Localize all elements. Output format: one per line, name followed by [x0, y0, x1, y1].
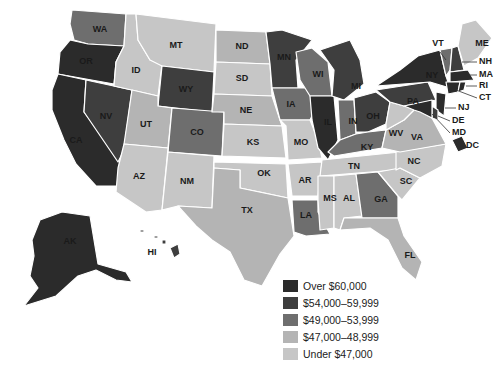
- state-ny: [376, 50, 450, 88]
- label-az: AZ: [133, 171, 145, 181]
- legend-label: $47,000–48,999: [303, 331, 379, 343]
- label-nj: NJ: [458, 102, 470, 112]
- label-wi: WI: [313, 69, 324, 79]
- label-il: IL: [324, 117, 333, 127]
- label-hi: HI: [148, 247, 157, 257]
- label-mn: MN: [277, 52, 291, 62]
- state-ma: [450, 70, 474, 82]
- label-tn: TN: [348, 161, 360, 171]
- label-ut: UT: [140, 119, 152, 129]
- label-tx: TX: [241, 205, 253, 215]
- label-sd: SD: [236, 73, 249, 83]
- label-ca: CA: [70, 135, 83, 145]
- legend-item-47000-48999: $47,000–48,999: [283, 328, 379, 345]
- legend-label: $54,000–59,999: [303, 297, 379, 309]
- legend-swatch: [283, 331, 298, 343]
- label-pa: PA: [407, 96, 419, 106]
- label-ri: RI: [479, 80, 488, 90]
- label-ma: MA: [479, 69, 493, 79]
- state-ri: [458, 82, 466, 92]
- label-nh: NH: [479, 56, 492, 66]
- label-nc: NC: [408, 156, 421, 166]
- legend-label: Under $47,000: [303, 348, 372, 360]
- legend-label: Over $60,000: [303, 280, 367, 292]
- label-ne: NE: [240, 105, 253, 115]
- label-sc: SC: [400, 176, 413, 186]
- label-mo: MO: [294, 137, 309, 147]
- label-va: VA: [411, 132, 423, 142]
- legend-swatch: [283, 297, 298, 309]
- label-mi: MI: [351, 81, 361, 91]
- label-nm: NM: [180, 176, 194, 186]
- legend-swatch: [283, 280, 298, 292]
- label-wv: WV: [389, 128, 404, 138]
- us-choropleth-map: WA OR CA NV ID MT WY UT CO AZ NM ND SD N…: [0, 0, 503, 368]
- map-svg: WA OR CA NV ID MT WY UT CO AZ NM ND SD N…: [0, 0, 503, 368]
- label-ny: NY: [426, 70, 439, 80]
- legend-item-49000-53999: $49,000–53,999: [283, 311, 379, 328]
- legend-swatch: [283, 314, 298, 326]
- label-co: CO: [190, 127, 204, 137]
- legend-item-over-60000: Over $60,000: [283, 277, 379, 294]
- label-ga: GA: [374, 194, 388, 204]
- label-ct: CT: [479, 92, 491, 102]
- label-ks: KS: [247, 137, 260, 147]
- label-nd: ND: [236, 41, 249, 51]
- label-md: MD: [452, 127, 466, 137]
- label-in: IN: [349, 116, 358, 126]
- legend-item-under-47000: Under $47,000: [283, 345, 379, 362]
- label-ar: AR: [299, 175, 312, 185]
- label-mt: MT: [170, 40, 183, 50]
- label-ms: MS: [323, 193, 337, 203]
- legend-label: $49,000–53,999: [303, 314, 379, 326]
- label-dc: DC: [466, 140, 479, 150]
- label-fl: FL: [405, 250, 416, 260]
- label-id: ID: [132, 65, 142, 75]
- label-vt: VT: [432, 38, 444, 48]
- label-ia: IA: [287, 99, 297, 109]
- label-wy: WY: [179, 84, 194, 94]
- label-la: LA: [300, 210, 312, 220]
- label-ok: OK: [257, 168, 271, 178]
- label-ak: AK: [64, 236, 77, 246]
- legend-item-54000-59999: $54,000–59,999: [283, 294, 379, 311]
- label-me: ME: [475, 38, 489, 48]
- label-wa: WA: [93, 24, 108, 34]
- label-de: DE: [452, 115, 465, 125]
- legend-swatch: [283, 348, 298, 360]
- label-ky: KY: [361, 142, 374, 152]
- legend: Over $60,000 $54,000–59,999 $49,000–53,9…: [283, 277, 379, 362]
- label-nv: NV: [100, 111, 113, 121]
- state-fl: [340, 218, 422, 280]
- state-ak: [24, 212, 132, 306]
- state-hi: [140, 230, 180, 258]
- label-oh: OH: [366, 111, 380, 121]
- label-al: AL: [343, 193, 355, 203]
- label-or: OR: [79, 56, 93, 66]
